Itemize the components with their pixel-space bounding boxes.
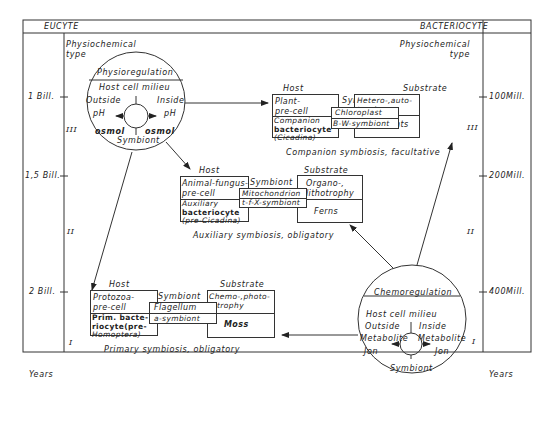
era-label: II — [67, 227, 75, 237]
era-label: III — [66, 125, 77, 135]
symbiont-box: Chloroplast B-W-symbiont — [331, 107, 399, 129]
left-tick-label: 1,5 Bill. — [25, 171, 60, 181]
era-label: III — [467, 123, 478, 133]
host-box: Protozoa-pre-cell Prim. bacte-riocyte(pr… — [90, 290, 158, 336]
physiochemical-type-left: Physiochemical type — [66, 40, 136, 60]
host-box: Plant-pre-cell Companionbacteriocyte(Cic… — [272, 94, 339, 138]
left-axis-unit: Years — [29, 370, 53, 380]
right-tick-label: 400Mill. — [489, 287, 525, 297]
right-axis-unit: Years — [489, 370, 513, 380]
symbiont-box: Mitochondrion t-f-X-symbiont — [239, 188, 307, 208]
bacteriocyte-label: BACTERIOCYTE — [420, 22, 488, 32]
eucyte-label: EUCYTE — [44, 22, 79, 32]
symbiont-box: Flagellum a-symbiont — [149, 302, 217, 324]
left-tick-label: 2 Bill. — [29, 287, 56, 297]
right-tick-label: 100Mill. — [489, 92, 525, 102]
era-label: I — [472, 337, 476, 347]
physiochemical-type-right: Physiochemical type — [395, 40, 470, 60]
diagram-lines — [0, 0, 546, 421]
right-tick-label: 200Mill. — [489, 171, 525, 181]
substrate-box: Chemo-,photo-trophy Moss — [207, 290, 275, 338]
left-tick-label: 1 Bill. — [28, 92, 55, 102]
era-label: I — [69, 338, 73, 348]
era-label: II — [467, 227, 475, 237]
